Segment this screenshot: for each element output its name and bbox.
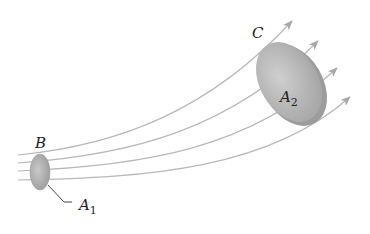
- flow-diagram: [0, 0, 370, 234]
- label-a2: A2: [280, 88, 298, 109]
- a1-leader-line: [48, 185, 72, 202]
- cross-section-a2: [242, 30, 341, 138]
- cross-section-a1: [30, 154, 50, 190]
- label-a1: A1: [79, 196, 97, 217]
- label-b: B: [35, 134, 46, 152]
- streamline-1: [18, 21, 292, 155]
- label-c: C: [252, 24, 263, 42]
